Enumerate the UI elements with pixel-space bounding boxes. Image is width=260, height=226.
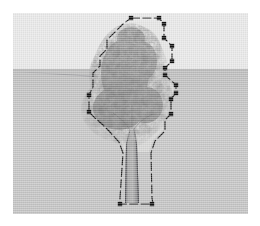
selection-grip[interactable] xyxy=(170,44,174,48)
scene-graphics xyxy=(13,13,248,214)
selection-grip[interactable] xyxy=(170,59,174,63)
selection-grip[interactable] xyxy=(129,16,133,20)
selection-grip[interactable] xyxy=(169,97,173,101)
selection-grip[interactable] xyxy=(118,202,122,206)
modeling-viewport[interactable] xyxy=(13,13,248,214)
selection-grip[interactable] xyxy=(169,112,173,116)
selection-grip[interactable] xyxy=(87,93,91,97)
selection-grip[interactable] xyxy=(163,73,167,77)
app-root xyxy=(0,0,260,226)
selection-grip[interactable] xyxy=(150,202,154,206)
selection-grip[interactable] xyxy=(162,22,166,26)
selection-grip[interactable] xyxy=(163,66,167,70)
selection-grip[interactable] xyxy=(174,91,178,95)
selection-grip[interactable] xyxy=(174,83,178,87)
selection-grip[interactable] xyxy=(162,36,166,40)
selection-grip[interactable] xyxy=(157,16,161,20)
selection-grip[interactable] xyxy=(87,110,91,114)
